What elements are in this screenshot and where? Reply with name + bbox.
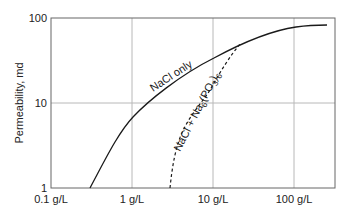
permeability-chart: 100 10 1 0.1 g/L 1 g/L 10 g/L 100 g/L Pe…	[0, 0, 349, 214]
annotation-nacl-only: NaCl only	[148, 57, 195, 93]
ytick-100: 100	[29, 12, 47, 24]
ytick-10: 10	[35, 97, 47, 109]
xtick-0-1: 0.1 g/L	[34, 193, 68, 205]
xtick-1: 1 g/L	[120, 193, 144, 205]
y-axis-label: Permeability, md	[13, 62, 25, 143]
anno-part-a: NaCl + Na	[171, 101, 205, 153]
annotation-nacl-napo3: NaCl + Na6(PO3)6	[171, 69, 224, 154]
xtick-100: 100 g/L	[276, 193, 313, 205]
xtick-10: 10 g/L	[198, 193, 229, 205]
